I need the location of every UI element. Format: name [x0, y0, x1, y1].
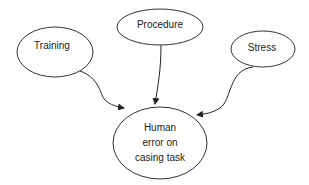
node-procedure: Procedure [117, 9, 203, 45]
node-stress: Stress [231, 31, 295, 67]
node-training: Training [17, 27, 93, 77]
node-label-human-error-line1: Human [144, 122, 176, 133]
edge-training-to-human-error [80, 71, 124, 108]
node-label-training: Training [34, 40, 70, 51]
node-label-stress: Stress [248, 42, 276, 53]
node-label-procedure: Procedure [137, 19, 184, 30]
node-human-error: Human error on casing task [113, 107, 207, 179]
node-label-human-error-line3: casing task [135, 152, 186, 163]
edge-procedure-to-human-error [155, 45, 161, 104]
node-label-human-error-line2: error on [142, 137, 177, 148]
diagram-canvas: Training Procedure Stress Human error on… [0, 0, 309, 185]
edge-stress-to-human-error [197, 67, 253, 115]
